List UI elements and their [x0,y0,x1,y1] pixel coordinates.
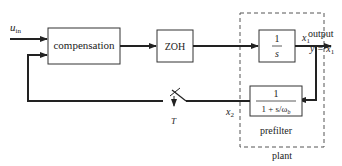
block-diagram: uin compensation ZOH 1 s x1 output y = x… [0,0,342,166]
integrator-denominator: s [275,48,279,59]
integrator-numerator: 1 [275,33,280,44]
plant-group-label: plant [272,150,292,161]
sampler-switch-icon [170,88,186,106]
x2-label: x2 [225,106,234,119]
prefilter-numerator: 1 [274,88,279,99]
prefilter-denominator: 1 + s/ωb [261,104,290,115]
compensation-label: compensation [53,39,115,51]
sampler-period-label: T [171,116,177,126]
input-label: uin [10,21,21,35]
output-label: output [308,28,334,39]
output-equation: y = x1 [309,43,335,56]
zoh-label: ZOH [165,41,186,52]
prefilter-group-label: prefilter [260,125,293,136]
